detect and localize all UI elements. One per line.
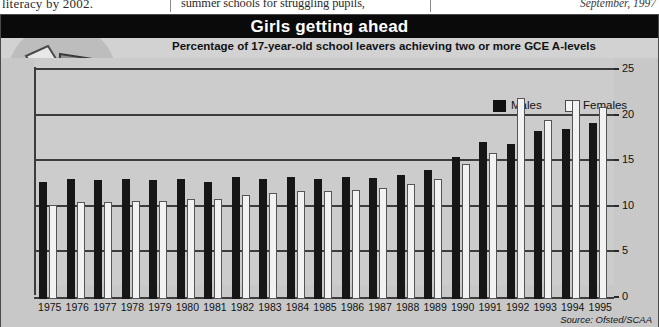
bar-group xyxy=(586,58,614,299)
bar-females xyxy=(104,202,112,299)
chart-title: Girls getting ahead xyxy=(1,17,658,37)
x-tick-label-1994: 1994 xyxy=(559,301,587,313)
newsprint-column-2-text: summer schools for struggling pupils, xyxy=(181,0,365,11)
newsprint-column-rule-left xyxy=(170,0,171,12)
bar-males xyxy=(177,179,185,299)
newsprint-column-1-text: literacy by 2002. xyxy=(2,0,93,12)
chart-source-note: Source: Ofsted/SCAA xyxy=(560,314,652,325)
issue-date-text: September, 1997 xyxy=(580,0,656,9)
newsprint-strip: literacy by 2002. summer schools for str… xyxy=(0,0,659,14)
x-tick-label-1979: 1979 xyxy=(146,301,174,313)
bar-males xyxy=(149,180,157,299)
x-tick-label-1977: 1977 xyxy=(91,301,119,313)
bar-males xyxy=(314,179,322,299)
bar-group xyxy=(476,58,504,299)
x-tick-label-1981: 1981 xyxy=(201,301,229,313)
bar-group xyxy=(531,58,559,299)
bar-females xyxy=(214,199,222,299)
y-tick-0 xyxy=(614,296,619,298)
bar-females xyxy=(159,201,167,299)
y-tick-5 xyxy=(614,250,619,252)
bar-males xyxy=(424,170,432,300)
bar-males xyxy=(507,144,515,299)
x-tick-label-1991: 1991 xyxy=(476,301,504,313)
chart-subtitle: Percentage of 17-year-old school leavers… xyxy=(119,40,649,52)
bar-males xyxy=(479,142,487,299)
x-tick-label-1995: 1995 xyxy=(586,301,614,313)
x-axis-labels: 1975197619771978197919801981198219831984… xyxy=(36,301,614,317)
bar-females xyxy=(269,193,277,299)
x-tick-label-1984: 1984 xyxy=(284,301,312,313)
bar-series-container xyxy=(36,58,614,299)
y-tick-25 xyxy=(614,68,619,70)
bar-females xyxy=(352,190,360,299)
bar-males xyxy=(342,177,350,299)
bar-males xyxy=(589,123,597,299)
bar-females xyxy=(379,188,387,299)
bar-group xyxy=(146,58,174,299)
chart-title-band: Girls getting ahead xyxy=(1,15,658,38)
newsprint-column-rule-right xyxy=(430,0,431,12)
bar-females xyxy=(49,205,57,299)
bar-group xyxy=(91,58,119,299)
bar-females xyxy=(132,201,140,299)
y-tick-20 xyxy=(614,114,619,116)
bar-males xyxy=(94,180,102,299)
bar-females xyxy=(324,191,332,299)
bar-group xyxy=(256,58,284,299)
bar-group xyxy=(36,58,64,299)
bar-females xyxy=(297,191,305,299)
bar-males xyxy=(452,157,460,299)
plot-area: Males Females 0510152025 197519761977197… xyxy=(1,58,658,327)
bar-group xyxy=(504,58,532,299)
bar-males xyxy=(39,182,47,299)
y-tick-label-25: 25 xyxy=(622,63,634,74)
x-tick-label-1982: 1982 xyxy=(229,301,257,313)
bar-group xyxy=(64,58,92,299)
x-tick-label-1986: 1986 xyxy=(339,301,367,313)
y-tick-label-0: 0 xyxy=(622,291,628,302)
bar-females xyxy=(407,184,415,299)
bar-females xyxy=(77,202,85,299)
bar-males xyxy=(259,179,267,299)
y-tick-label-5: 5 xyxy=(622,245,628,256)
bar-group xyxy=(284,58,312,299)
bar-group xyxy=(366,58,394,299)
bar-group xyxy=(559,58,587,299)
bar-females xyxy=(462,164,470,299)
bar-group xyxy=(449,58,477,299)
bar-males xyxy=(204,182,212,299)
bar-group xyxy=(174,58,202,299)
bar-males xyxy=(67,179,75,299)
bar-group xyxy=(421,58,449,299)
x-tick-label-1987: 1987 xyxy=(366,301,394,313)
x-tick-label-1990: 1990 xyxy=(449,301,477,313)
bar-males xyxy=(397,175,405,299)
bar-group xyxy=(229,58,257,299)
chart-graphic: Girls getting ahead Percentage of 17-yea… xyxy=(0,14,659,327)
x-tick-label-1978: 1978 xyxy=(119,301,147,313)
bar-females xyxy=(242,195,250,299)
bar-females xyxy=(187,199,195,299)
x-tick-label-1993: 1993 xyxy=(531,301,559,313)
x-tick-label-1989: 1989 xyxy=(421,301,449,313)
bar-males xyxy=(562,129,570,299)
bar-females xyxy=(599,107,607,299)
bar-females xyxy=(572,100,580,299)
bar-males xyxy=(232,177,240,299)
bar-females xyxy=(434,179,442,299)
bar-males xyxy=(287,177,295,299)
bar-group xyxy=(119,58,147,299)
x-tick-label-1992: 1992 xyxy=(504,301,532,313)
x-tick-label-1983: 1983 xyxy=(256,301,284,313)
bar-males xyxy=(534,131,542,299)
x-tick-label-1988: 1988 xyxy=(394,301,422,313)
bar-females xyxy=(544,120,552,299)
y-tick-label-10: 10 xyxy=(622,200,634,211)
bar-males xyxy=(122,179,130,299)
bar-females xyxy=(517,98,525,299)
x-tick-label-1985: 1985 xyxy=(311,301,339,313)
y-tick-label-15: 15 xyxy=(622,154,634,165)
bar-group xyxy=(394,58,422,299)
x-tick-label-1980: 1980 xyxy=(174,301,202,313)
